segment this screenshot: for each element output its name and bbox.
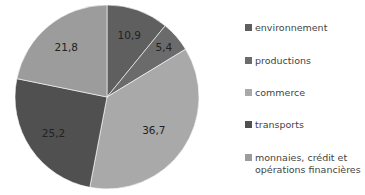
- legend-label: monnaies, crédit et opérations financièr…: [255, 152, 363, 176]
- legend-swatch-icon: [245, 121, 252, 128]
- legend-label: commerce: [255, 87, 305, 99]
- slice-value-label: 25,2: [42, 127, 65, 139]
- slice-value-label: 36,7: [142, 124, 165, 136]
- legend-item-commerce: commerce: [245, 87, 305, 99]
- legend-swatch-icon: [245, 89, 252, 96]
- legend-label: environnement: [255, 22, 327, 34]
- slice-value-label: 21,8: [55, 41, 78, 53]
- legend-swatch-icon: [245, 57, 252, 64]
- slice-value-label: 5,4: [156, 41, 173, 53]
- legend-label: productions: [255, 55, 311, 67]
- legend-label: transports: [255, 119, 304, 131]
- legend-item-environnement: environnement: [245, 22, 327, 34]
- legend-swatch-icon: [245, 24, 252, 31]
- legend-item-monnaies: monnaies, crédit et opérations financièr…: [245, 152, 363, 176]
- legend-swatch-icon: [245, 154, 252, 161]
- pie-chart: 10,95,436,725,221,8: [0, 0, 230, 195]
- slice-value-label: 10,9: [118, 29, 141, 41]
- legend-item-productions: productions: [245, 55, 311, 67]
- legend-item-transports: transports: [245, 119, 304, 131]
